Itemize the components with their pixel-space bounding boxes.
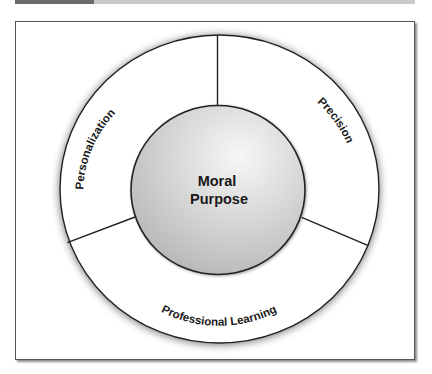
- moral-purpose-diagram: Moral Purpose Personalization Precision …: [0, 0, 432, 374]
- inner-circle: [131, 106, 305, 275]
- center-label-line2: Purpose: [190, 191, 248, 207]
- center-label-line1: Moral: [198, 173, 237, 189]
